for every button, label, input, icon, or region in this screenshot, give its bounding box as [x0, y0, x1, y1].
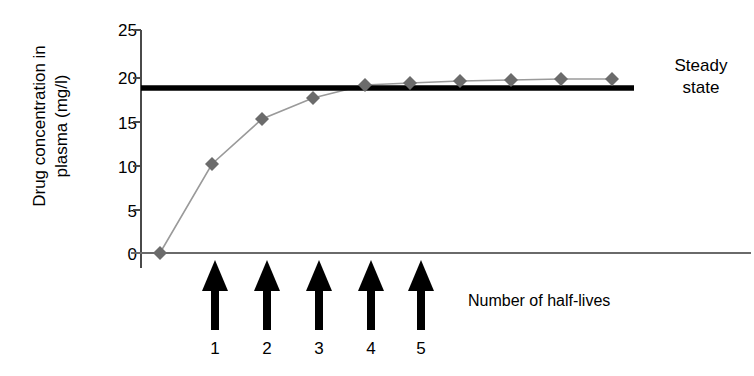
figure-drug-accumulation-steady-state: Drug concentration in plasma (mg/l) 25 2… [0, 0, 754, 376]
half-life-arrow-3 [306, 260, 332, 330]
half-life-arrow-1 [202, 260, 228, 330]
data-point-9 [605, 72, 619, 86]
data-markers [153, 72, 619, 260]
half-life-label-1: 1 [204, 340, 226, 357]
data-point-3 [306, 91, 320, 105]
half-life-arrows [202, 260, 434, 330]
data-point-7 [504, 73, 518, 87]
steady-state-label: Steady state [648, 55, 754, 99]
half-life-arrow-2 [254, 260, 280, 330]
half-life-arrow-4 [358, 260, 384, 330]
steady-state-label-line-2: state [648, 77, 754, 99]
half-life-label-5: 5 [410, 340, 432, 357]
half-life-label-3: 3 [308, 340, 330, 357]
data-point-0 [153, 246, 167, 260]
half-life-arrow-5 [408, 260, 434, 330]
half-life-label-4: 4 [360, 340, 382, 357]
half-life-label-2: 2 [256, 340, 278, 357]
data-point-8 [554, 72, 568, 86]
steady-state-label-line-1: Steady [648, 55, 754, 77]
plot-area [0, 0, 754, 376]
data-curve [160, 79, 612, 253]
x-axis-title: Number of half-lives [468, 292, 610, 310]
